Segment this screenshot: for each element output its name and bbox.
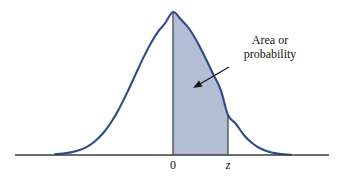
annotation-line-1: Area or bbox=[222, 33, 318, 47]
area-probability-annotation: Area or probability bbox=[222, 33, 318, 61]
axis-tick-label-z: z bbox=[216, 158, 240, 172]
annotation-line-2: probability bbox=[222, 47, 318, 61]
axis-tick-label-zero: 0 bbox=[161, 158, 185, 172]
normal-distribution-figure: Area or probability 0 z bbox=[0, 0, 340, 186]
